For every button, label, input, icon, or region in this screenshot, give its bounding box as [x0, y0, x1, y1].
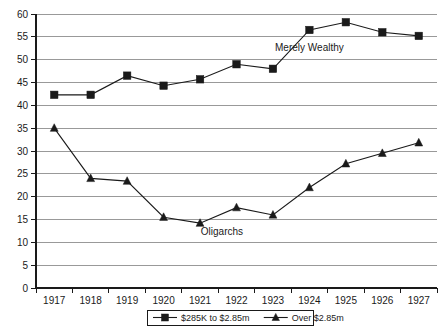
data-point-square	[160, 82, 168, 90]
line-chart: 051015202530354045505560 191719181919192…	[0, 0, 444, 331]
y-tick-label: 30	[17, 146, 29, 157]
chart-annotation: Merely Wealthy	[275, 42, 344, 53]
x-tick-label: 1922	[225, 295, 248, 306]
y-axis-tick-labels: 051015202530354045505560	[17, 9, 29, 294]
legend-label: $285K to $2.85m	[181, 313, 250, 323]
data-point-square	[233, 60, 241, 68]
data-point-square	[379, 29, 387, 37]
data-point-triangle	[233, 203, 241, 211]
y-tick-label: 45	[17, 77, 29, 88]
legend-entry[interactable]: $285K to $2.85m	[153, 313, 250, 323]
y-tick-label: 20	[17, 191, 29, 202]
y-tick-label: 40	[17, 100, 29, 111]
series-1	[50, 18, 422, 98]
x-tick-label: 1918	[80, 295, 103, 306]
y-tick-label: 50	[17, 54, 29, 65]
data-point-triangle	[50, 124, 58, 132]
y-tick-label: 55	[17, 31, 29, 42]
data-point-square	[269, 65, 277, 73]
x-tick-label: 1926	[371, 295, 394, 306]
y-tick-label: 5	[22, 260, 28, 271]
x-tick-label: 1920	[152, 295, 175, 306]
data-point-square	[162, 314, 169, 321]
y-tick-label: 25	[17, 168, 29, 179]
data-point-square	[123, 72, 130, 80]
chart-legend[interactable]: $285K to $2.85mOver $2.85m	[147, 310, 344, 325]
x-tick-label: 1923	[262, 295, 285, 306]
y-tick-label: 15	[17, 214, 29, 225]
series-layer	[50, 18, 422, 226]
series-line	[54, 22, 419, 95]
data-point-square	[196, 76, 204, 84]
x-tick-label: 1927	[408, 295, 431, 306]
x-axis-tick-labels: 1917191819191920192119221923192419251926…	[43, 295, 430, 306]
data-point-square	[87, 91, 95, 99]
x-tick-label: 1925	[335, 295, 358, 306]
chart-container: 051015202530354045505560 191719181919192…	[0, 0, 444, 331]
chart-annotation: Oligarchs	[201, 226, 243, 237]
data-point-square	[50, 91, 58, 99]
data-point-square	[342, 18, 350, 26]
data-point-square	[306, 26, 314, 34]
y-tick-label: 60	[17, 9, 29, 20]
x-tick-label: 1924	[298, 295, 321, 306]
legend-label: Over $2.85m	[292, 313, 344, 323]
gridlines	[36, 14, 437, 288]
data-point-triangle	[305, 183, 313, 191]
x-tick-label: 1921	[189, 295, 212, 306]
x-tick-label: 1917	[43, 295, 66, 306]
data-point-square	[415, 32, 423, 40]
x-tick-label: 1919	[116, 295, 139, 306]
series-2	[50, 124, 422, 227]
y-tick-label: 0	[22, 283, 28, 294]
y-tick-label: 35	[17, 123, 29, 134]
y-tick-label: 10	[17, 237, 29, 248]
data-point-triangle	[415, 138, 423, 146]
